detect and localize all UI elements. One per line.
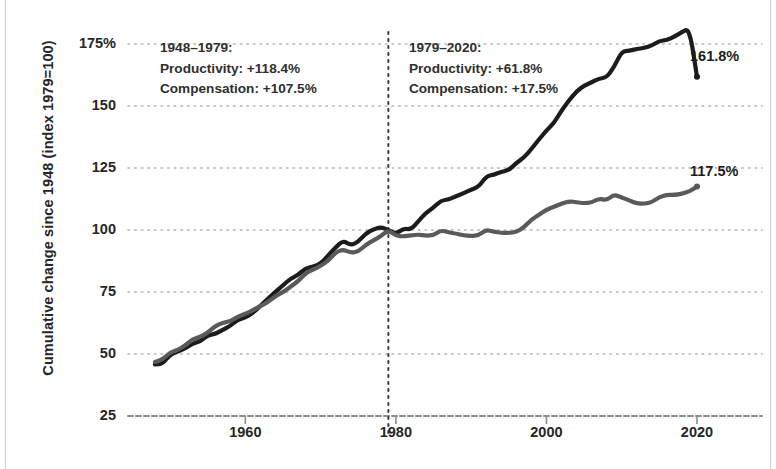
y-tick-label-125: 125 (52, 160, 116, 175)
annotation-period-1979-2020: 1979–2020: Productivity: +61.8% Compensa… (409, 38, 558, 100)
annotation-1979-2020-compensation: Compensation: +17.5% (409, 79, 558, 100)
chart-plot-area (0, 0, 776, 469)
y-axis-tick-labels: 175%150125100755025 (52, 0, 116, 469)
annotation-1948-1979-productivity: Productivity: +118.4% (160, 59, 317, 80)
y-tick-label-175: 175% (52, 36, 116, 51)
productivity-endpoint-label: 161.8% (690, 48, 739, 64)
y-tick-label-100: 100 (52, 222, 116, 237)
x-tick-label-1960: 1960 (229, 424, 261, 440)
x-tick-label-2000: 2000 (530, 424, 562, 440)
y-tick-label-50: 50 (52, 346, 116, 361)
annotation-period-1948-1979: 1948–1979: Productivity: +118.4% Compens… (160, 38, 317, 100)
compensation-endpoint-label: 117.5% (690, 163, 738, 179)
productivity-pay-gap-chart: Cumulative change since 1948 (index 1979… (0, 0, 776, 469)
y-tick-label-150: 150 (52, 98, 116, 113)
annotation-1948-1979-compensation: Compensation: +107.5% (160, 79, 317, 100)
annotation-1948-1979-heading: 1948–1979: (160, 38, 317, 59)
series-endpoint-compensation (694, 184, 700, 190)
y-tick-label-75: 75 (52, 284, 116, 299)
y-tick-label-25: 25 (52, 408, 116, 423)
x-tick-label-2020: 2020 (681, 424, 713, 440)
series-endpoint-productivity (694, 74, 700, 80)
annotation-1979-2020-heading: 1979–2020: (409, 38, 558, 59)
annotation-1979-2020-productivity: Productivity: +61.8% (409, 59, 558, 80)
x-tick-label-1980: 1980 (380, 424, 412, 440)
